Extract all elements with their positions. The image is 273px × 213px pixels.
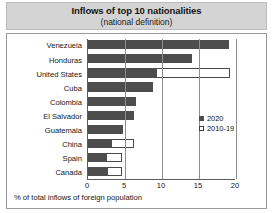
bar-2020 [88, 68, 157, 77]
bar-2020 [88, 40, 229, 49]
legend-item: 2020 [199, 113, 234, 123]
chart-legend: 20202010-19 [199, 113, 234, 133]
bar-2020 [88, 167, 108, 176]
plot-area [87, 39, 235, 180]
x-axis-tick-labels: 05101520 [87, 181, 235, 193]
chart-subtitle: (national definition) [7, 17, 266, 27]
bar-2020 [88, 139, 112, 148]
bar-2020 [88, 153, 107, 162]
y-axis-label-venezuela: Venezuela [47, 41, 82, 50]
gridline-20 [236, 39, 237, 179]
gridline-10 [162, 39, 163, 179]
legend-item: 2010-19 [199, 123, 234, 133]
gridline-15 [199, 39, 200, 179]
bar-2020 [88, 82, 153, 91]
bar-2020 [88, 54, 192, 63]
y-axis-label-cuba: Cuba [64, 84, 82, 93]
title-band: Inflows of top 10 nationalities (nationa… [6, 2, 267, 30]
bar-2020 [88, 125, 123, 134]
y-axis-label-china: China [62, 140, 82, 149]
x-axis-title: % of total inflows of foreign population [14, 193, 142, 202]
y-axis-label-honduras: Honduras [49, 56, 82, 65]
chart-figure: Inflows of top 10 nationalities (nationa… [0, 0, 273, 213]
gridline-5 [125, 39, 126, 179]
bar-2020 [88, 97, 136, 106]
y-axis-label-colombia: Colombia [50, 98, 82, 107]
legend-label: 2020 [207, 114, 223, 123]
bar-2020 [88, 111, 134, 120]
y-axis-label-el-salvador: El Salvador [43, 112, 82, 121]
y-axis-label-guatemala: Guatemala [45, 126, 82, 135]
y-axis-label-united-states: United States [36, 70, 82, 79]
y-axis-label-canada: Canada [55, 168, 82, 177]
x-tick-0: 0 [85, 181, 89, 190]
y-axis-category-labels: VenezuelaHondurasUnited StatesCubaColomb… [10, 39, 85, 180]
legend-label: 2010-19 [207, 124, 234, 133]
legend-swatch-2010-19 [199, 126, 204, 131]
x-tick-5: 5 [122, 181, 126, 190]
x-tick-15: 15 [194, 181, 202, 190]
chart-title: Inflows of top 10 nationalities [7, 5, 266, 16]
legend-swatch-2020 [199, 116, 204, 121]
y-axis-label-spain: Spain [63, 154, 82, 163]
x-tick-10: 10 [157, 181, 165, 190]
x-tick-20: 20 [231, 181, 239, 190]
